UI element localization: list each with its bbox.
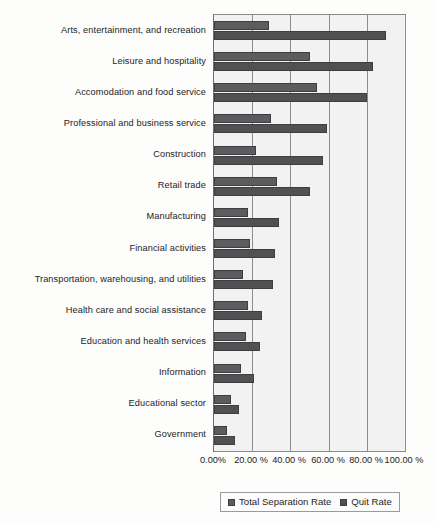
bar-0 bbox=[214, 21, 269, 30]
bar-1 bbox=[214, 156, 323, 165]
bar-1 bbox=[214, 405, 239, 414]
category-label: Education and health services bbox=[0, 336, 206, 346]
bar-1 bbox=[214, 280, 273, 289]
category-label: Leisure and hospitality bbox=[0, 56, 206, 66]
bar-group bbox=[214, 46, 405, 77]
category-label: Educational sector bbox=[0, 398, 206, 408]
bar-group bbox=[214, 202, 405, 233]
category-label: Health care and social assistance bbox=[0, 305, 206, 315]
bar-0 bbox=[214, 395, 231, 404]
legend-label: Total Separation Rate bbox=[239, 497, 331, 507]
category-label: Arts, entertainment, and recreation bbox=[0, 25, 206, 35]
legend-label: Quit Rate bbox=[351, 497, 392, 507]
category-label: Financial activities bbox=[0, 243, 206, 253]
bar-0 bbox=[214, 364, 241, 373]
bar-group bbox=[214, 108, 405, 139]
plot-inner bbox=[214, 15, 405, 451]
bar-0 bbox=[214, 270, 243, 279]
bar-1 bbox=[214, 124, 327, 133]
category-label: Government bbox=[0, 429, 206, 439]
bar-0 bbox=[214, 208, 248, 217]
horizontal-bar-chart: Arts, entertainment, and recreationLeisu… bbox=[0, 0, 434, 523]
bar-group bbox=[214, 171, 405, 202]
tick-label: 100.00 % bbox=[381, 455, 427, 467]
bar-1 bbox=[214, 342, 260, 351]
bar-group bbox=[214, 389, 405, 420]
bar-group bbox=[214, 420, 405, 451]
legend-swatch-icon bbox=[228, 499, 235, 506]
category-label: Information bbox=[0, 367, 206, 377]
category-label: Accomodation and food service bbox=[0, 87, 206, 97]
value-axis: 0.00%20.00 %40.00 %60.00 %80.00 %100.00 … bbox=[213, 455, 413, 495]
bar-0 bbox=[214, 146, 256, 155]
category-label: Professional and business service bbox=[0, 118, 206, 128]
bar-1 bbox=[214, 187, 310, 196]
bar-0 bbox=[214, 83, 317, 92]
bar-1 bbox=[214, 436, 235, 445]
bar-1 bbox=[214, 374, 254, 383]
chart-legend: Total Separation RateQuit Rate bbox=[220, 492, 400, 512]
category-label: Manufacturing bbox=[0, 211, 206, 221]
bar-1 bbox=[214, 311, 262, 320]
category-label: Transportation, warehousing, and utiliti… bbox=[0, 274, 206, 284]
legend-swatch-icon bbox=[340, 499, 347, 506]
bar-group bbox=[214, 15, 405, 46]
bar-1 bbox=[214, 62, 373, 71]
bar-group bbox=[214, 233, 405, 264]
bar-1 bbox=[214, 93, 367, 102]
bar-group bbox=[214, 326, 405, 357]
bar-0 bbox=[214, 426, 227, 435]
plot-area bbox=[213, 14, 406, 452]
bar-group bbox=[214, 295, 405, 326]
bar-0 bbox=[214, 177, 277, 186]
gridline bbox=[405, 15, 406, 451]
bar-1 bbox=[214, 31, 386, 40]
bar-0 bbox=[214, 332, 246, 341]
category-label: Retail trade bbox=[0, 180, 206, 190]
bar-1 bbox=[214, 249, 275, 258]
bar-0 bbox=[214, 239, 250, 248]
bar-1 bbox=[214, 218, 279, 227]
legend-entry: Total Separation Rate bbox=[228, 497, 331, 507]
bar-group bbox=[214, 77, 405, 108]
category-label: Construction bbox=[0, 149, 206, 159]
bar-group bbox=[214, 358, 405, 389]
bar-0 bbox=[214, 301, 248, 310]
bar-0 bbox=[214, 114, 271, 123]
bar-group bbox=[214, 140, 405, 171]
bar-group bbox=[214, 264, 405, 295]
legend-entry: Quit Rate bbox=[340, 497, 392, 507]
category-axis: Arts, entertainment, and recreationLeisu… bbox=[0, 14, 211, 452]
bar-0 bbox=[214, 52, 310, 61]
